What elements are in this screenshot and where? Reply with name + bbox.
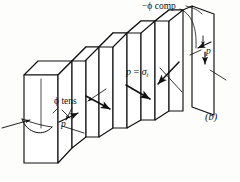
label-p-right: p bbox=[206, 47, 211, 57]
slab-3 bbox=[99, 33, 127, 137]
panel-label: (b) bbox=[205, 112, 217, 123]
slab-6-end-face bbox=[192, 6, 214, 115]
label-p-equals-sigma-t: p = σt bbox=[126, 67, 148, 78]
label-phi-comp: −ϕ comp bbox=[142, 2, 176, 12]
block-geometry bbox=[2, 6, 214, 163]
slab-5 bbox=[155, 10, 183, 120]
mechanics-diagram bbox=[0, 0, 240, 182]
figure-panel-b: ϕ tens −ϕ comp p = σt p p (b) bbox=[0, 0, 240, 182]
label-sigma-subscript: t bbox=[147, 71, 149, 78]
label-p-left: p bbox=[61, 120, 66, 130]
label-phi-tens: ϕ tens bbox=[54, 97, 77, 107]
left-prism-block bbox=[24, 61, 72, 163]
